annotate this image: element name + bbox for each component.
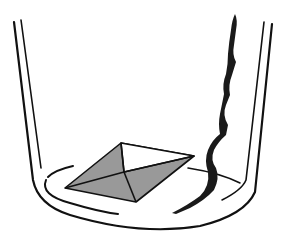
- illustration: [0, 0, 286, 246]
- crystal: [65, 143, 194, 202]
- dissolution-trail: [172, 14, 237, 214]
